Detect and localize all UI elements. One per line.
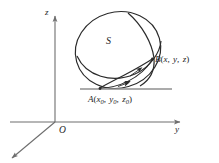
sphere-group: [66, 2, 170, 99]
point-b-marker: [151, 58, 154, 61]
point-b-label: B(x, y, z): [155, 55, 189, 64]
y-axis-label: y: [175, 125, 179, 134]
x-axis: [12, 122, 55, 158]
point-b-comma-1: ,: [168, 54, 171, 64]
point-a-marker: [99, 87, 102, 90]
z-axis-label: z: [45, 8, 49, 17]
surface-label: S: [106, 36, 111, 46]
point-b-comma-2: ,: [177, 54, 180, 64]
point-a-comma-2: ,: [117, 94, 120, 104]
sphere-equator-arc: [77, 41, 161, 78]
directed-curve-a-to-b: [99, 58, 154, 90]
point-a-comma-1: ,: [104, 94, 107, 104]
figure-canvas: [0, 0, 219, 163]
sphere-diagram-figure: z y O S B(x, y, z) A(x0, y0, z0): [0, 0, 219, 163]
axes-group: [10, 16, 180, 158]
point-b-close-paren: ): [186, 54, 189, 64]
origin-label: O: [59, 126, 66, 136]
sphere-outline: [66, 2, 170, 99]
point-a-label: A(x0, y0, z0): [88, 95, 132, 105]
point-a-close-paren: ): [129, 94, 132, 104]
